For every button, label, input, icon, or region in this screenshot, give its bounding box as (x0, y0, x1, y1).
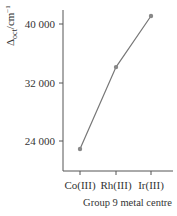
y-ticks: 40 000 32 000 24 000 (25, 18, 63, 147)
chart: 40 000 32 000 24 000 Co(III) Rh(III) Ir(… (0, 0, 177, 216)
xtick-label: Co(III) (64, 179, 95, 192)
xtick-label: Ir(III) (138, 179, 164, 192)
xtick-label: Rh(III) (100, 179, 131, 192)
x-ticks: Co(III) Rh(III) Ir(III) (64, 171, 164, 192)
data-point (114, 65, 118, 69)
ytick-label: 40 000 (25, 18, 56, 30)
y-axis-label: Δoct/cm−1 (4, 5, 19, 46)
data-line (80, 16, 151, 149)
data-markers (78, 14, 153, 151)
svg-text:Δoct/cm−1: Δoct/cm−1 (4, 5, 19, 46)
data-point (149, 14, 153, 18)
ytick-label: 24 000 (25, 135, 56, 147)
data-point (78, 147, 82, 151)
ytick-label: 32 000 (25, 77, 56, 89)
x-axis-label: Group 9 metal centre (83, 197, 172, 208)
